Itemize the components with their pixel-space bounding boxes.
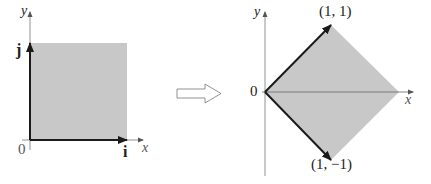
right-x-axis-label: x bbox=[405, 93, 411, 107]
right-diagram bbox=[262, 12, 413, 176]
right-y-axis-label: y bbox=[254, 5, 260, 19]
vertex-top-label: (1, 1) bbox=[319, 4, 352, 19]
diamond-region bbox=[265, 25, 399, 160]
vertex-bottom-label: (1, −1) bbox=[311, 157, 352, 172]
left-y-axis-label: y bbox=[21, 4, 27, 18]
vector-i-label: i bbox=[123, 144, 127, 160]
vector-j-label: j bbox=[16, 42, 21, 58]
hollow-right-arrow-icon bbox=[177, 84, 221, 103]
left-x-axis-label: x bbox=[142, 141, 148, 155]
left-origin-label: 0 bbox=[18, 142, 26, 157]
diagram-canvas bbox=[0, 0, 431, 184]
right-origin-label: 0 bbox=[250, 84, 258, 99]
unit-square-region bbox=[30, 43, 127, 140]
left-diagram bbox=[22, 12, 143, 150]
